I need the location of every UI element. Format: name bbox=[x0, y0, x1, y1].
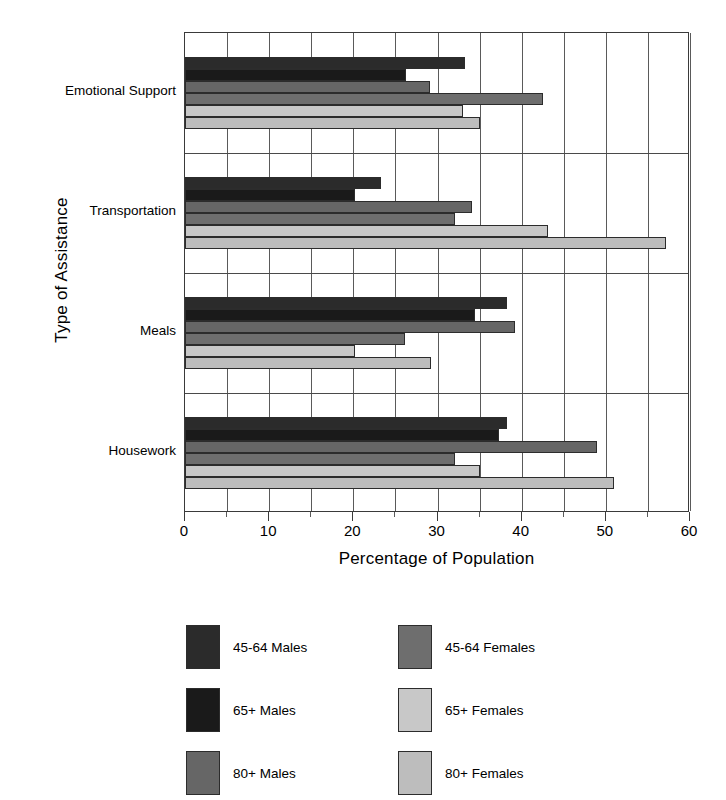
legend-swatch bbox=[398, 688, 432, 732]
legend-swatch bbox=[186, 688, 220, 732]
bar bbox=[185, 93, 543, 105]
bar bbox=[185, 441, 597, 453]
bar bbox=[185, 225, 548, 237]
bar bbox=[185, 321, 515, 333]
bar-chart-figure: Type of Assistance Emotional SupportTran… bbox=[0, 0, 726, 800]
x-axis-tick-major bbox=[268, 512, 269, 521]
x-axis-tick-major bbox=[184, 512, 185, 521]
y-axis-category-label: Emotional Support bbox=[6, 84, 176, 98]
legend-item: 45-64 Females bbox=[398, 625, 535, 669]
bar bbox=[185, 57, 465, 69]
legend-item: 80+ Females bbox=[398, 751, 523, 795]
legend-label: 80+ Males bbox=[233, 766, 296, 781]
x-axis-tick-major bbox=[521, 512, 522, 521]
legend-swatch bbox=[398, 625, 432, 669]
x-axis-tick-minor bbox=[647, 512, 648, 517]
legend-swatch bbox=[186, 625, 220, 669]
y-axis-category-label: Meals bbox=[6, 324, 176, 338]
x-axis-ticks bbox=[184, 512, 689, 522]
legend-item: 80+ Males bbox=[186, 751, 296, 795]
bar bbox=[185, 69, 406, 81]
x-axis-tick-label: 10 bbox=[260, 522, 277, 539]
bar-group bbox=[185, 393, 688, 513]
x-axis-tick-label: 30 bbox=[428, 522, 445, 539]
y-axis-category-labels: Emotional SupportTransportationMealsHous… bbox=[0, 32, 176, 512]
legend-label: 45-64 Males bbox=[233, 640, 307, 655]
x-axis-tick-minor bbox=[563, 512, 564, 517]
bar bbox=[185, 345, 355, 357]
y-axis-category-label: Housework bbox=[6, 444, 176, 458]
bar bbox=[185, 417, 507, 429]
bar bbox=[185, 189, 355, 201]
x-axis-tick-minor bbox=[310, 512, 311, 517]
bar bbox=[185, 429, 499, 441]
bar bbox=[185, 213, 455, 225]
x-axis-tick-label: 40 bbox=[512, 522, 529, 539]
x-axis-tick-minor bbox=[479, 512, 480, 517]
legend-item: 65+ Males bbox=[186, 688, 296, 732]
x-axis-title: Percentage of Population bbox=[184, 549, 689, 569]
bar bbox=[185, 357, 431, 369]
legend-swatch bbox=[186, 751, 220, 795]
x-axis-tick-minor bbox=[394, 512, 395, 517]
bar bbox=[185, 297, 507, 309]
gridline-vertical bbox=[690, 33, 691, 511]
legend-label: 65+ Males bbox=[233, 703, 296, 718]
legend-label: 65+ Females bbox=[445, 703, 523, 718]
x-axis-tick-minor bbox=[226, 512, 227, 517]
bar bbox=[185, 105, 463, 117]
bar bbox=[185, 477, 614, 489]
x-axis-tick-major bbox=[689, 512, 690, 521]
x-axis-tick-label: 20 bbox=[344, 522, 361, 539]
legend-label: 45-64 Females bbox=[445, 640, 535, 655]
x-axis-tick-major bbox=[605, 512, 606, 521]
bar bbox=[185, 117, 480, 129]
legend-item: 45-64 Males bbox=[186, 625, 307, 669]
plot-area bbox=[184, 32, 689, 512]
bar bbox=[185, 465, 480, 477]
bar bbox=[185, 309, 475, 321]
x-axis-tick-major bbox=[352, 512, 353, 521]
bar bbox=[185, 201, 472, 213]
bar-group bbox=[185, 33, 688, 153]
legend-swatch bbox=[398, 751, 432, 795]
x-axis-tick-labels: 0102030405060 bbox=[184, 522, 689, 544]
bar bbox=[185, 453, 455, 465]
x-axis-tick-label: 60 bbox=[681, 522, 698, 539]
x-axis-tick-label: 50 bbox=[596, 522, 613, 539]
bar-group bbox=[185, 273, 688, 393]
chart-legend: 45-64 Males65+ Males80+ Males45-64 Femal… bbox=[186, 625, 606, 775]
x-axis-tick-major bbox=[437, 512, 438, 521]
bar bbox=[185, 81, 430, 93]
bar bbox=[185, 237, 666, 249]
legend-item: 65+ Females bbox=[398, 688, 523, 732]
bar bbox=[185, 177, 381, 189]
y-axis-category-label: Transportation bbox=[6, 204, 176, 218]
legend-label: 80+ Females bbox=[445, 766, 523, 781]
x-axis-tick-label: 0 bbox=[180, 522, 188, 539]
bar-group bbox=[185, 153, 688, 273]
bar bbox=[185, 333, 405, 345]
